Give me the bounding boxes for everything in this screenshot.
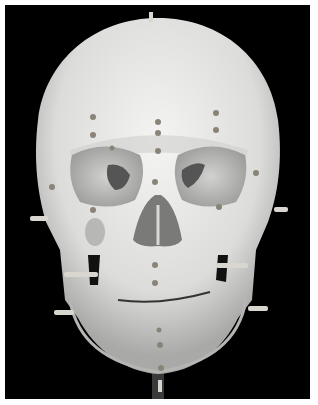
left-orbit (70, 147, 143, 207)
image-frame (0, 0, 318, 405)
skull-illustration (5, 5, 310, 399)
photograph (5, 5, 310, 399)
